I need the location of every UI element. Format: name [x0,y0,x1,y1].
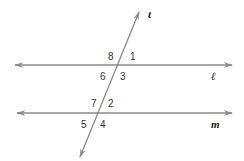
label-l: ℓ [211,70,216,82]
angle-2: 2 [108,98,114,109]
angle-3: 3 [120,71,126,82]
transversal-diagram: t ℓ m 8 1 6 3 7 2 5 4 [0,0,244,161]
label-m: m [211,118,220,130]
label-t: t [148,8,152,20]
angle-1: 1 [130,51,136,62]
angle-6: 6 [100,71,106,82]
angle-8: 8 [108,51,114,62]
angle-5: 5 [81,119,87,130]
angle-4: 4 [100,119,106,130]
transversal-t [80,12,139,157]
angle-7: 7 [91,98,97,109]
